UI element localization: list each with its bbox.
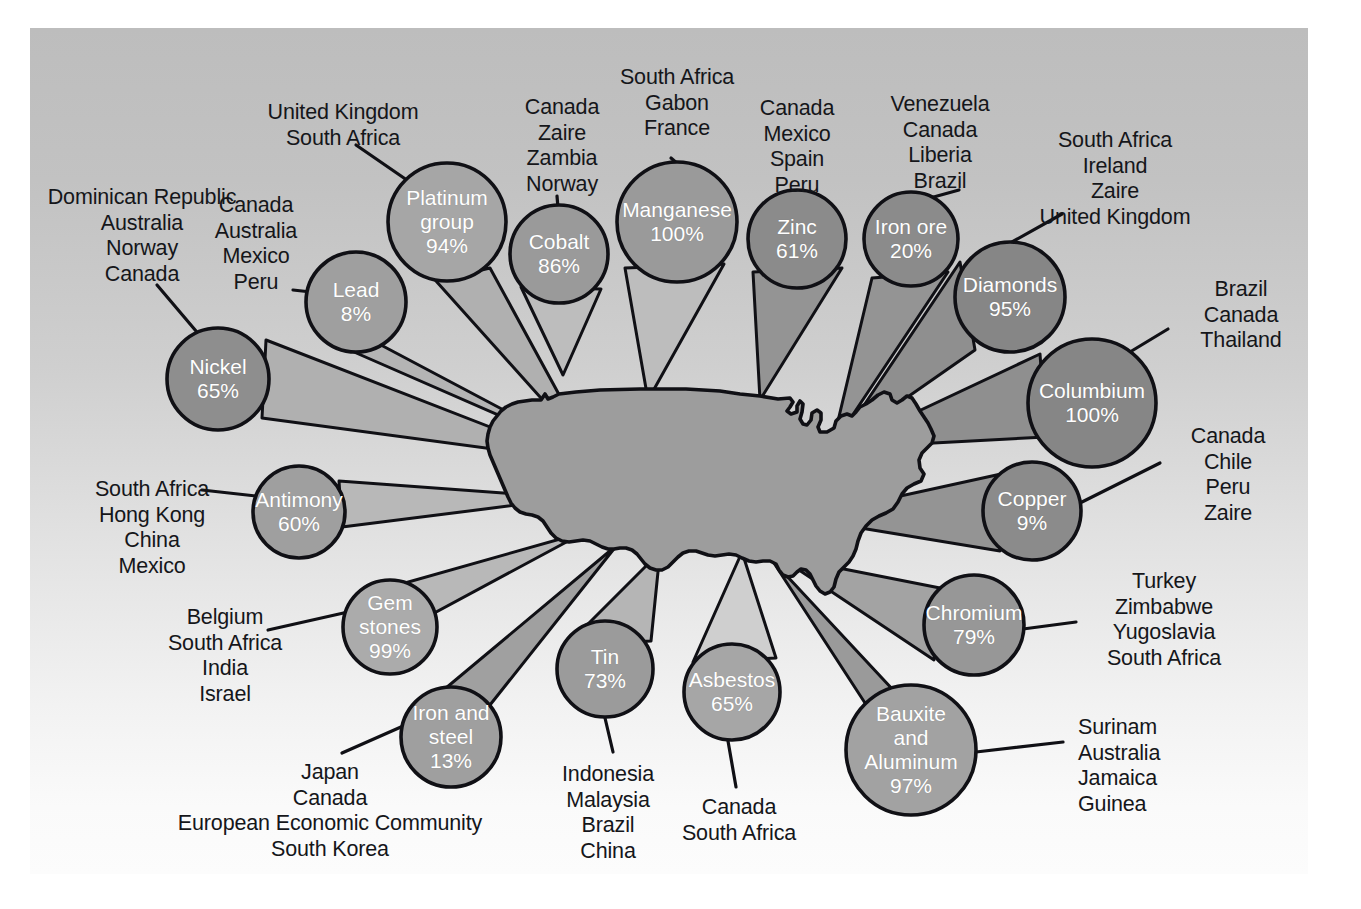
bubble-iron-ore xyxy=(864,192,958,286)
source-countries-tin: Indonesia Malaysia Brazil China xyxy=(541,762,675,864)
bubble-antimony xyxy=(253,466,345,558)
source-countries-columbium: Brazil Canada Thailand xyxy=(1175,277,1307,354)
bubble-cobalt xyxy=(510,205,608,303)
leader-chromium xyxy=(1023,622,1076,629)
bubble-copper xyxy=(983,462,1081,560)
source-countries-antimony: South Africa Hong Kong China Mexico xyxy=(66,477,238,579)
leader-bauxite xyxy=(976,742,1063,752)
bubble-asbestos xyxy=(684,644,780,740)
bubble-manganese xyxy=(617,162,737,282)
source-countries-asbestos: Canada South Africa xyxy=(660,795,818,846)
leader-asbestos xyxy=(728,741,736,787)
bubble-columbium xyxy=(1028,339,1156,467)
source-countries-nickel: Dominican Republic Australia Norway Cana… xyxy=(36,185,248,287)
wedge-manganese xyxy=(625,264,724,400)
bubble-zinc xyxy=(748,190,846,288)
bubble-platinum-group xyxy=(388,163,506,281)
source-countries-chromium: Turkey Zimbabwe Yugoslavia South Africa xyxy=(1083,569,1245,671)
bubble-diamonds xyxy=(955,242,1065,352)
bubble-nickel xyxy=(167,328,269,430)
source-countries-bauxite-and-aluminum: Surinam Australia Jamaica Guinea xyxy=(1078,715,1238,817)
bubble-tin xyxy=(557,621,653,717)
leader-tin xyxy=(605,718,613,752)
bubble-lead xyxy=(306,252,406,352)
source-countries-iron-ore: Venezuela Canada Liberia Brazil xyxy=(860,92,1020,194)
source-countries-gem-stones: Belgium South Africa India Israel xyxy=(141,605,309,707)
leader-nickel xyxy=(157,285,196,331)
source-countries-cobalt: Canada Zaire Zambia Norway xyxy=(506,95,618,197)
infographic-canvas: Platinumgroup94%Lead8%Nickel65%Antimony6… xyxy=(0,0,1361,909)
source-countries-iron-and-steel: Japan Canada European Economic Community… xyxy=(160,760,500,862)
source-countries-platinum-group: United Kingdom South Africa xyxy=(253,100,433,151)
bubble-bauxite-and-aluminum xyxy=(846,685,976,815)
united-states-map xyxy=(487,389,934,594)
source-countries-diamonds: South Africa Ireland Zaire United Kingdo… xyxy=(1004,128,1226,230)
bubble-gem-stones xyxy=(343,580,437,674)
leader-copper xyxy=(1076,463,1160,505)
bubble-chromium xyxy=(924,575,1024,675)
source-countries-copper: Canada Chile Peru Zaire xyxy=(1172,424,1284,526)
